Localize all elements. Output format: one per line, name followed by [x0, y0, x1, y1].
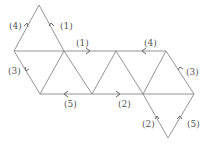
label-left: (3) [8, 66, 21, 76]
label-right: (3) [186, 67, 199, 77]
net-edges [14, 5, 194, 138]
label-bottom-2: (2) [118, 99, 131, 109]
bottom-triangle-edges [143, 94, 194, 138]
zigzag-edges [14, 51, 194, 94]
triangle-net-diagram: (4) (1) (1) (4) (3) (3) (5) (2) (2) (5) [0, 0, 205, 147]
diagram-canvas: (4) (1) (1) (4) (3) (3) (5) (2) (2) (5) [0, 0, 205, 147]
label-top-left: (4) [9, 21, 22, 31]
arrow-icon [49, 23, 54, 26]
arrow-icon [24, 23, 28, 27]
arrow-icon [25, 67, 29, 71]
label-bottom-5: (5) [64, 99, 77, 109]
edge-arrows [24, 23, 183, 119]
label-lower-right: (5) [187, 119, 200, 129]
label-lower-left: (2) [142, 119, 155, 129]
label-mid-top-4: (4) [144, 38, 157, 48]
arrow-icon [178, 67, 183, 70]
edge-labels: (4) (1) (1) (4) (3) (3) (5) (2) (2) (5) [8, 21, 200, 129]
label-top-right: (1) [60, 21, 73, 31]
label-mid-top-1: (1) [76, 38, 89, 48]
